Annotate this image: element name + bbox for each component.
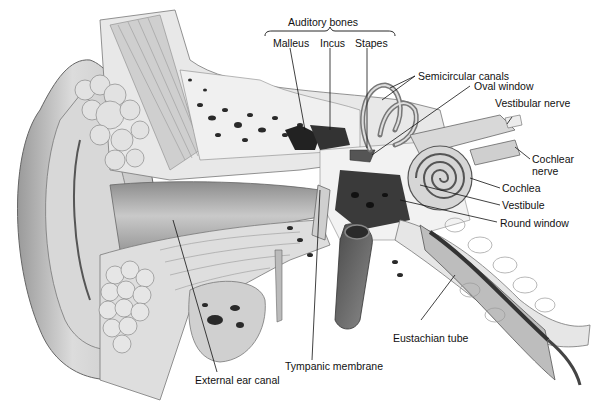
label-malleus: Malleus	[273, 37, 309, 49]
lower-tissue	[99, 220, 330, 400]
label-cochlea: Cochlea	[502, 182, 541, 194]
label-auditory-bones: Auditory bones	[288, 16, 358, 28]
label-cochlear-nerve-line2: nerve	[532, 165, 558, 177]
label-vestibule: Vestibule	[502, 199, 545, 211]
cochlea	[408, 146, 472, 210]
label-stapes: Stapes	[355, 37, 388, 49]
eustachian-tube	[395, 218, 590, 385]
label-vestibular-nerve: Vestibular nerve	[495, 97, 570, 109]
carotid-vessel	[335, 224, 372, 329]
label-eustachian-tube: Eustachian tube	[393, 332, 468, 344]
auditory-bones-bracket	[265, 27, 395, 36]
label-cochlear-nerve-line1: Cochlear	[532, 153, 574, 165]
label-round-window: Round window	[500, 217, 569, 229]
label-oval-window: Oval window	[474, 80, 534, 92]
label-tympanic-membrane: Tympanic membrane	[285, 360, 383, 372]
label-incus: Incus	[320, 37, 345, 49]
label-external-ear-canal: External ear canal	[195, 374, 280, 386]
ear-diagram: Auditory bones Malleus Incus Stapes Semi…	[0, 0, 592, 408]
